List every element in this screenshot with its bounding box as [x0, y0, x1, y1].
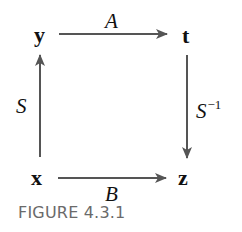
- label-s-inverse: S−1: [196, 98, 221, 122]
- commutative-diagram: y t x z A B S S−1 FIGURE 4.3.1: [0, 0, 242, 232]
- label-s: S: [16, 96, 27, 117]
- figure-caption: FIGURE 4.3.1: [18, 205, 125, 221]
- label-a: A: [105, 11, 118, 32]
- label-s-inverse-base: S: [196, 99, 207, 123]
- label-s-inverse-exponent: −1: [208, 97, 222, 112]
- node-y: y: [34, 24, 45, 46]
- node-z: z: [178, 167, 188, 189]
- node-t: t: [182, 25, 189, 47]
- node-x: x: [31, 167, 42, 189]
- label-b: B: [105, 184, 118, 205]
